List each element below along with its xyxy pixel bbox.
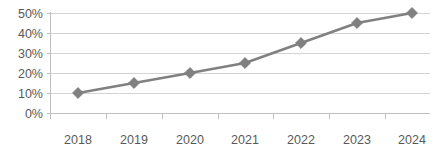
x-tick-label-2021: 2021 xyxy=(231,133,259,147)
x-tick-label-2024: 2024 xyxy=(398,133,426,147)
chart-canvas: 50% 40% 30% 20% 10% 0% 2018 2019 2020 20… xyxy=(0,0,441,154)
chart-background xyxy=(0,0,441,154)
x-tick-label-2023: 2023 xyxy=(343,133,371,147)
y-tick-label-0: 0% xyxy=(25,107,43,121)
y-tick-label-30: 30% xyxy=(18,47,43,61)
y-tick-label-40: 40% xyxy=(18,27,43,41)
x-tick-label-2020: 2020 xyxy=(176,133,204,147)
y-tick-label-10: 10% xyxy=(18,87,43,101)
line-chart: 50% 40% 30% 20% 10% 0% 2018 2019 2020 20… xyxy=(0,0,441,154)
x-tick-label-2018: 2018 xyxy=(64,133,92,147)
y-tick-label-20: 20% xyxy=(18,67,43,81)
y-tick-label-50: 50% xyxy=(18,7,43,21)
x-tick-label-2022: 2022 xyxy=(287,133,315,147)
x-tick-label-2019: 2019 xyxy=(120,133,148,147)
